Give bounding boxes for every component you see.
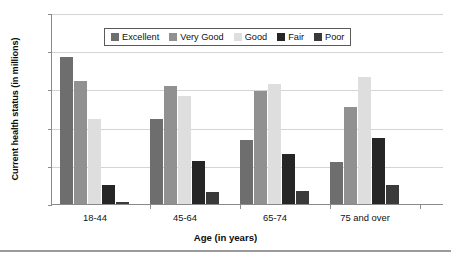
y-axis-tick-mark — [48, 52, 52, 53]
legend-label: Fair — [288, 32, 304, 42]
legend-label: Excellent — [122, 32, 159, 42]
legend-item: Very Good — [169, 32, 223, 42]
bar-chart-figure: Current health status (in millions) 0102… — [0, 0, 451, 257]
legend-label: Very Good — [180, 32, 223, 42]
x-axis-tick-label: 18-44 — [83, 212, 107, 223]
chart-legend: ExcellentVery GoodGoodFairPoor — [104, 28, 351, 46]
legend-item: Poor — [314, 32, 344, 42]
bar — [240, 140, 253, 204]
x-axis-title: Age (in years) — [0, 232, 451, 243]
bar — [192, 161, 205, 204]
page-bottom-rule — [0, 250, 451, 252]
y-axis-tick-mark — [48, 167, 52, 168]
x-axis-tick-label: 45-64 — [173, 212, 197, 223]
x-axis-tick-mark — [240, 204, 241, 209]
bar — [254, 91, 267, 204]
y-axis-title: Current health status (in millions) — [10, 9, 20, 209]
bar — [116, 202, 129, 204]
bar — [88, 119, 101, 204]
y-axis-tick-mark — [48, 14, 52, 15]
bar — [60, 57, 73, 204]
x-axis-tick-label: 75 and over — [340, 212, 390, 223]
bar — [102, 185, 115, 204]
bar — [178, 96, 191, 204]
legend-swatch-icon — [111, 33, 119, 41]
bar — [386, 185, 399, 204]
x-axis-tick-mark — [150, 204, 151, 209]
bar — [268, 84, 281, 204]
x-axis-tick-mark — [420, 204, 421, 209]
x-axis-tick-mark — [330, 204, 331, 209]
legend-swatch-icon — [234, 33, 242, 41]
legend-label: Poor — [325, 32, 344, 42]
bar — [344, 107, 357, 204]
bar — [206, 192, 219, 204]
y-axis-tick-mark — [48, 129, 52, 130]
bar — [282, 154, 295, 204]
bar — [164, 86, 177, 204]
legend-label: Good — [245, 32, 267, 42]
legend-item: Fair — [277, 32, 304, 42]
legend-item: Excellent — [111, 32, 159, 42]
y-axis-tick-mark — [48, 205, 52, 206]
x-axis-tick-label: 65-74 — [263, 212, 287, 223]
bar — [74, 81, 87, 204]
bar — [150, 119, 163, 204]
y-axis-tick-mark — [48, 90, 52, 91]
legend-swatch-icon — [277, 33, 285, 41]
bar — [358, 77, 371, 204]
bar — [296, 191, 309, 204]
legend-swatch-icon — [314, 33, 322, 41]
legend-item: Good — [234, 32, 267, 42]
bar — [372, 138, 385, 204]
bar — [330, 162, 343, 204]
legend-swatch-icon — [169, 33, 177, 41]
